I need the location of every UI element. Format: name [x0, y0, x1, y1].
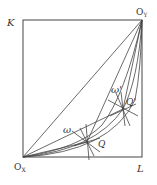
point-q-prime-label: Q' [126, 97, 136, 107]
diagonal-line [23, 20, 142, 157]
origin-y-label: OY [136, 7, 148, 18]
omega-prime-label: ω' [111, 84, 122, 95]
origin-x-label: OX [14, 162, 26, 173]
axis-label-k: K [6, 17, 15, 28]
point-q-label: Q [98, 139, 106, 149]
edgeworth-box-diagram: K L OX OY ω ω' Q Q' [0, 0, 157, 185]
omega-label: ω [63, 124, 71, 135]
axis-label-l: L [136, 163, 144, 174]
